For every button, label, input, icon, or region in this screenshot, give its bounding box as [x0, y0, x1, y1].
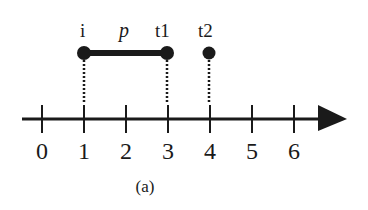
axis-tick-label: 3: [162, 138, 174, 164]
label-t2: t2: [198, 20, 213, 41]
caption: (a): [136, 177, 155, 196]
axis-tick-label: 2: [120, 138, 132, 164]
axis-tick-label: 0: [36, 138, 48, 164]
axis-tick-label: 1: [78, 138, 90, 164]
label-i: i: [80, 20, 85, 41]
dot-t1: [160, 46, 174, 60]
axis-arrow-icon: [318, 105, 347, 131]
axis-tick-label: 5: [246, 138, 258, 164]
label-p: p: [117, 19, 129, 42]
dot-i: [77, 46, 91, 60]
axis-tick-labels: 0123456: [36, 138, 300, 164]
axis-tick-label: 6: [288, 138, 300, 164]
timeline-diagram: 0123456 i p t1 t2 (a): [0, 0, 368, 210]
label-t1: t1: [155, 20, 170, 41]
axis-tick-label: 4: [204, 138, 216, 164]
dot-t2: [203, 47, 216, 60]
